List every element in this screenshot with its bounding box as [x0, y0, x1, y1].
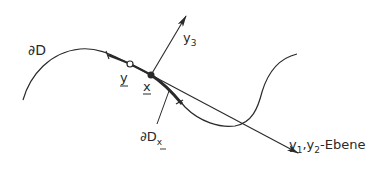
point-y-marker [127, 61, 133, 67]
tangent-plane-axis [151, 75, 298, 153]
point-x-marker [148, 72, 155, 79]
point-x-label: x [143, 79, 151, 94]
point-y-label: y [120, 70, 128, 85]
boundary-label: ∂D [28, 42, 46, 58]
plane-label: y1,y2-Ebene [289, 137, 365, 155]
local-boundary-label: ∂Dx [140, 129, 163, 147]
local-boundary-leader [157, 91, 169, 124]
diagram-canvas: ∂D y x y3 ∂Dx y1,y2-Ebene [0, 0, 386, 177]
axis-y3-label: y3 [183, 30, 196, 48]
normal-axis-y3 [151, 16, 186, 75]
